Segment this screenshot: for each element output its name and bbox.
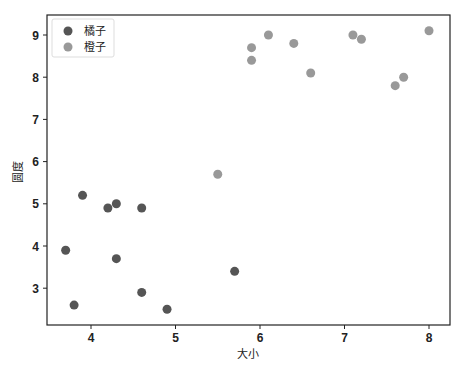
data-point-series-0: [70, 301, 79, 310]
x-axis-label: 大小: [237, 347, 259, 361]
data-point-series-1: [247, 43, 256, 52]
legend-label-series-0: 橘子: [84, 25, 106, 38]
x-axis-ticks: 45678: [88, 325, 433, 345]
legend-label-series-1: 橙子: [84, 40, 106, 54]
y-tick-label: 3: [32, 282, 39, 296]
scatter-chart: 45678 3456789 大小 圆度 橘子 橙子: [0, 0, 465, 375]
data-point-series-1: [357, 35, 366, 44]
y-tick-label: 8: [32, 71, 39, 85]
data-point-series-0: [112, 254, 121, 263]
data-point-series-1: [348, 31, 357, 40]
data-point-series-1: [264, 31, 273, 40]
y-tick-label: 9: [32, 29, 39, 43]
data-point-series-0: [78, 191, 87, 200]
x-tick-label: 8: [426, 331, 433, 345]
y-tick-label: 4: [32, 240, 39, 254]
data-point-series-0: [137, 204, 146, 213]
data-point-series-0: [230, 267, 239, 276]
x-tick-label: 5: [172, 331, 179, 345]
data-point-series-1: [391, 81, 400, 90]
data-point-series-1: [399, 73, 408, 82]
y-axis-ticks: 3456789: [32, 29, 47, 296]
legend-marker-series-0: [64, 27, 73, 36]
data-point-series-1: [247, 56, 256, 65]
data-point-series-1: [289, 39, 298, 48]
data-point-series-0: [163, 305, 172, 314]
data-point-series-0: [103, 204, 112, 213]
x-tick-label: 6: [257, 331, 264, 345]
data-point-series-1: [306, 68, 315, 77]
legend-marker-series-1: [64, 43, 73, 52]
legend: 橘子 橙子: [52, 19, 114, 57]
data-point-series-0: [112, 199, 121, 208]
data-point-series-1: [425, 26, 434, 35]
x-tick-label: 4: [88, 331, 95, 345]
y-axis-label: 圆度: [11, 161, 25, 183]
y-tick-label: 7: [32, 113, 39, 127]
x-tick-label: 7: [341, 331, 348, 345]
data-point-series-0: [61, 246, 70, 255]
data-point-series-0: [137, 288, 146, 297]
y-tick-label: 6: [32, 155, 39, 169]
y-tick-label: 5: [32, 197, 39, 211]
data-point-series-1: [213, 170, 222, 179]
